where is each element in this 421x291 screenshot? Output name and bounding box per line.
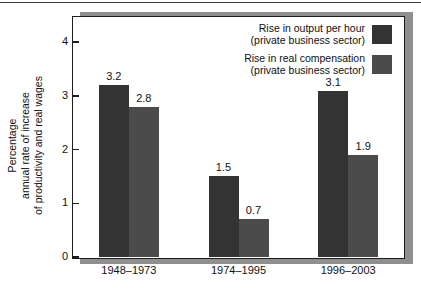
bar-group: 3.22.8 xyxy=(99,18,159,257)
y-axis-tick-label: 0 xyxy=(38,251,68,262)
y-axis-title-line-1: Percentage xyxy=(6,76,19,215)
chart-legend: Rise in output per hour(private business… xyxy=(232,22,392,82)
page-rule xyxy=(0,2,421,3)
legend-item-label-line-2: (private business sector) xyxy=(251,34,365,46)
legend-item-label-line-1: Rise in output per hour xyxy=(251,22,365,34)
legend-swatch xyxy=(372,25,392,44)
bar[interactable]: 1.9 xyxy=(348,155,378,257)
y-axis-tick-label: 1 xyxy=(38,197,68,208)
bar[interactable]: 0.7 xyxy=(239,219,269,257)
y-axis-tick-label: 2 xyxy=(38,144,68,155)
legend-item-label-line-1: Rise in real compensation xyxy=(244,52,365,64)
bar[interactable]: 1.5 xyxy=(209,176,239,257)
chart-figure: Percentage annual rate of increase of pr… xyxy=(0,0,421,291)
x-axis-category-label: 1996–2003 xyxy=(303,265,393,276)
y-axis-tick xyxy=(72,41,79,43)
bar[interactable]: 2.8 xyxy=(129,107,159,257)
legend-item[interactable]: Rise in real compensation(private busine… xyxy=(232,52,392,76)
y-axis-tick xyxy=(72,149,79,151)
legend-swatch xyxy=(372,55,392,74)
legend-item-label: Rise in real compensation(private busine… xyxy=(244,52,365,76)
y-axis-tick-label: 3 xyxy=(38,90,68,101)
y-axis-tick xyxy=(72,95,79,97)
legend-item-label: Rise in output per hour(private business… xyxy=(251,22,365,46)
y-axis-tick-label: 4 xyxy=(38,36,68,47)
legend-item[interactable]: Rise in output per hour(private business… xyxy=(232,22,392,46)
y-axis-tick xyxy=(72,203,79,205)
y-axis-title-line-2: annual rate of increase xyxy=(19,76,32,215)
bar-value-label: 1.9 xyxy=(356,141,371,152)
x-axis-category-label: 1948–1973 xyxy=(84,265,174,276)
bar-value-label: 3.2 xyxy=(106,71,121,82)
legend-item-label-line-2: (private business sector) xyxy=(244,64,365,76)
bar-value-label: 0.7 xyxy=(246,205,261,216)
bar-value-label: 2.8 xyxy=(136,93,151,104)
bar[interactable]: 3.1 xyxy=(318,91,348,257)
x-axis-category-label: 1974–1995 xyxy=(194,265,284,276)
y-axis-tick xyxy=(72,256,79,258)
bar[interactable]: 3.2 xyxy=(99,85,129,257)
bar-value-label: 1.5 xyxy=(216,162,231,173)
